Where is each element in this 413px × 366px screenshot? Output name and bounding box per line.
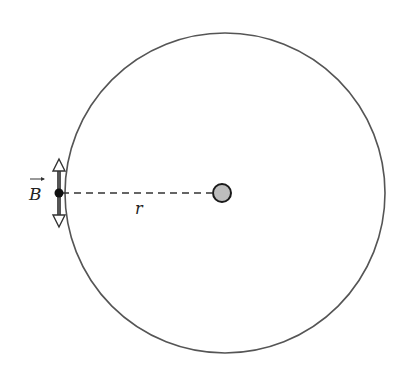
radius-label: r [135,199,144,218]
arrow-down-icon [53,215,65,227]
vector-arrow-head-icon [41,177,45,181]
arrow-up-icon [53,159,65,171]
center-wire [213,184,231,202]
field-point-dot [55,189,64,198]
field-label: B [28,184,42,204]
ampere-loop-diagram: B r [0,0,413,366]
